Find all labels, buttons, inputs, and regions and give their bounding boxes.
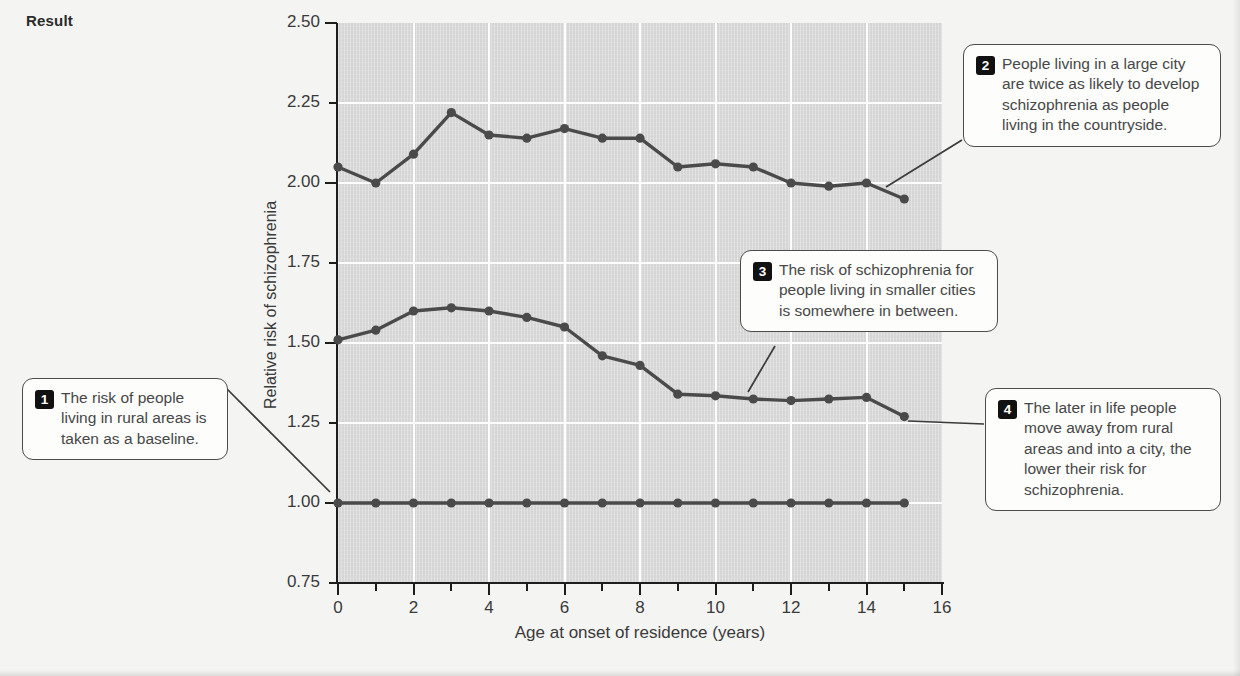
data-point — [409, 498, 418, 507]
data-point — [635, 134, 644, 143]
data-point — [824, 182, 833, 191]
data-point — [711, 159, 720, 168]
chart-figure: 0.751.001.251.501.752.002.252.50 0246810… — [0, 0, 1240, 676]
data-point — [484, 306, 493, 315]
data-point — [522, 498, 531, 507]
data-point — [371, 498, 380, 507]
data-point — [598, 498, 607, 507]
callout-2-number: 2 — [976, 56, 995, 75]
callout-3[interactable]: 3 The risk of schizophrenia for people l… — [740, 250, 998, 332]
data-point — [484, 130, 493, 139]
data-point — [824, 498, 833, 507]
data-point — [711, 391, 720, 400]
data-point — [900, 412, 909, 421]
data-point — [786, 498, 795, 507]
data-point — [560, 124, 569, 133]
data-point — [522, 313, 531, 322]
series-line — [338, 113, 904, 199]
data-point — [447, 108, 456, 117]
data-point — [635, 498, 644, 507]
data-point — [598, 351, 607, 360]
callout-2-text: People living in a large city are twice … — [976, 54, 1208, 136]
data-point — [333, 335, 342, 344]
data-point — [749, 162, 758, 171]
data-point — [409, 306, 418, 315]
data-point — [522, 134, 531, 143]
callout-4-number: 4 — [998, 400, 1017, 419]
callout-2[interactable]: 2 People living in a large city are twic… — [963, 44, 1221, 147]
callout-4[interactable]: 4 The later in life people move away fro… — [985, 388, 1221, 511]
data-point — [447, 498, 456, 507]
data-point — [409, 150, 418, 159]
series-3 — [333, 498, 909, 507]
data-point — [749, 394, 758, 403]
data-point — [560, 322, 569, 331]
data-point — [749, 498, 758, 507]
series-1 — [333, 108, 909, 204]
callout-1-number: 1 — [35, 390, 54, 409]
data-point — [371, 178, 380, 187]
data-point — [635, 361, 644, 370]
data-point — [900, 194, 909, 203]
callout-3-text: The risk of schizophrenia for people liv… — [753, 260, 985, 321]
data-point — [824, 394, 833, 403]
callout-3-number: 3 — [753, 262, 772, 281]
data-point — [598, 134, 607, 143]
data-point — [900, 498, 909, 507]
callout-4-text: The later in life people move away from … — [998, 398, 1208, 500]
scan-edge-bottom — [0, 670, 1240, 676]
data-point — [673, 390, 682, 399]
data-point — [673, 162, 682, 171]
data-point — [447, 303, 456, 312]
data-point — [333, 162, 342, 171]
data-point — [786, 396, 795, 405]
data-point — [333, 498, 342, 507]
scan-edge-right — [1233, 0, 1240, 676]
data-point — [673, 498, 682, 507]
data-point — [560, 498, 569, 507]
data-point — [862, 393, 871, 402]
data-point — [484, 498, 493, 507]
data-point — [862, 498, 871, 507]
data-point — [711, 498, 720, 507]
data-point — [862, 178, 871, 187]
data-point — [786, 178, 795, 187]
callout-1-text: The risk of people living in rural areas… — [35, 388, 215, 449]
data-point — [371, 326, 380, 335]
callout-1[interactable]: 1 The risk of people living in rural are… — [22, 378, 228, 460]
